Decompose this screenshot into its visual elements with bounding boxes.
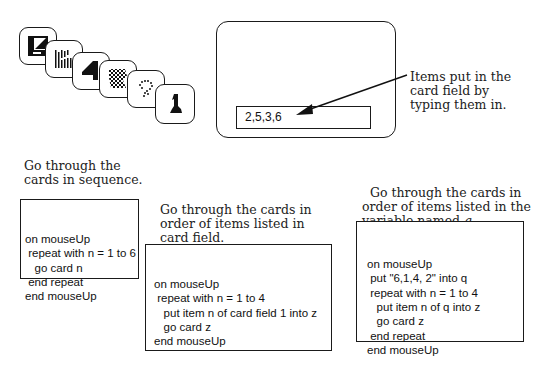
example-1-caption: Go through the cards in sequence.	[24, 159, 143, 187]
code-line: go card z	[154, 320, 327, 334]
caption-line: Go through the cards in	[370, 185, 521, 200]
code-line: on mouseUp	[25, 232, 134, 246]
code-line: end mouseUp	[154, 334, 327, 348]
code-line: end repeat	[367, 329, 519, 343]
code-line: go card z	[367, 314, 519, 328]
code-line: put item n of card field 1 into z	[154, 306, 327, 320]
example-3-caption: Go through the cards in order of items l…	[362, 172, 531, 228]
field-annotation: Items put in the card field by typing th…	[410, 70, 511, 112]
code-line: on mouseUp	[367, 257, 519, 271]
example-3-script: on mouseUp put "6,1,4, 2" into q repeat …	[356, 221, 524, 342]
code-line: on mouseUp	[154, 277, 327, 291]
code-line: put item n of q into z	[367, 300, 519, 314]
code-line: repeat with n = 1 to 4	[154, 291, 327, 305]
code-line: repeat with n = 1 to 4	[367, 286, 519, 300]
code-line: end mouseUp	[25, 289, 134, 303]
code-line: end mouseUp	[367, 343, 519, 357]
caption-line: order of items listed in the	[362, 199, 531, 214]
code-line: put "6,1,4, 2" into q	[367, 271, 519, 285]
example-1-script: on mouseUp repeat with n = 1 to 6 go car…	[20, 199, 139, 279]
example-2-script: on mouseUp repeat with n = 1 to 4 put it…	[145, 244, 332, 351]
example-2-caption: Go through the cards in order of items l…	[160, 203, 311, 245]
code-line: repeat with n = 1 to 6	[25, 246, 134, 260]
code-line: go card n	[25, 261, 134, 275]
code-line: end repeat	[25, 275, 134, 289]
